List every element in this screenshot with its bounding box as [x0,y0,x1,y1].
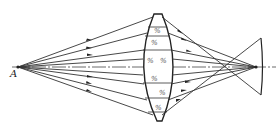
ray-arrow-icons [86,39,93,93]
focus-point [254,65,257,68]
svg-text:%: % [159,89,166,97]
svg-text:%: % [160,57,167,65]
svg-text:%: % [151,75,158,83]
image-screen [261,38,263,95]
optical-diagram: % % % % % % % A [0,0,278,133]
svg-text:%: % [154,27,161,35]
svg-text:%: % [155,104,162,112]
refracted-arrow-icons [176,30,192,103]
svg-text:%: % [147,57,154,65]
svg-text:%: % [151,39,158,47]
source-label: A [9,68,17,79]
incident-rays [18,17,153,115]
